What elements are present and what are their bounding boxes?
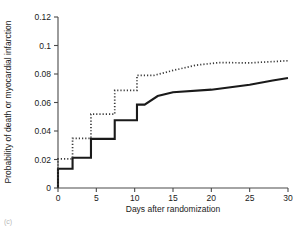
panel-corner-mark: (c) xyxy=(4,218,12,226)
y-axis-group: 00.020.040.060.080.10.12 xyxy=(34,12,58,193)
x-tick-label-5: 5 xyxy=(94,193,99,203)
y-tick-label-0.1: 0.1 xyxy=(39,41,51,51)
x-tick-labels: 051015202530 xyxy=(56,193,293,203)
y-tick-label-0.02: 0.02 xyxy=(34,155,51,165)
x-tick-label-10: 10 xyxy=(130,193,140,203)
series-dotted-curve xyxy=(58,61,288,188)
x-tick-label-25: 25 xyxy=(245,193,255,203)
x-tick-label-0: 0 xyxy=(56,193,61,203)
y-tick-labels: 00.020.040.060.080.10.12 xyxy=(34,12,51,193)
x-axis-title: Days after randomization xyxy=(126,204,221,214)
y-tick-label-0.06: 0.06 xyxy=(34,98,51,108)
survival-curve-chart: 00.020.040.060.080.10.12 051015202530 Da… xyxy=(0,0,295,227)
y-axis-title: Probability of death or myocardial infar… xyxy=(3,20,13,183)
y-tick-label-0.08: 0.08 xyxy=(34,69,51,79)
y-tick-label-0.04: 0.04 xyxy=(34,126,51,136)
x-tick-label-20: 20 xyxy=(207,193,217,203)
x-tick-label-15: 15 xyxy=(168,193,178,203)
x-axis-group: 051015202530 xyxy=(56,188,293,203)
series-solid-curve xyxy=(58,78,288,188)
data-series-group xyxy=(58,61,288,188)
x-tick-label-30: 30 xyxy=(283,193,293,203)
y-tick-label-0.12: 0.12 xyxy=(34,12,51,22)
x-tick-marks xyxy=(58,188,288,192)
y-tick-label-0: 0 xyxy=(46,183,51,193)
